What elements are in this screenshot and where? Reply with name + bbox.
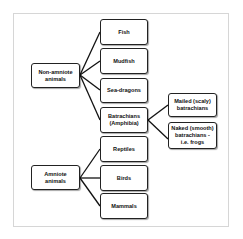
node-amniote-animals: Amniote animals — [31, 165, 80, 190]
node-mudfish: Mudfish — [100, 48, 148, 74]
node-mammals: Mammals — [100, 193, 148, 219]
node-batrachians: Batrachians (Amphibia) — [100, 107, 148, 133]
node-reptiles: Reptiles — [100, 136, 148, 162]
node-birds: Birds — [100, 165, 148, 191]
node-naked-batrachians: Naked (smooth) batrachians - i.e. frogs — [168, 122, 217, 149]
node-mailed-batrachians: Mailed (scaly) batrachians — [168, 93, 217, 117]
node-fish: Fish — [100, 19, 148, 45]
node-sea-dragons: Sea-dragons — [100, 78, 148, 103]
node-non-amniote-animals: Non-amniote animals — [31, 63, 80, 88]
